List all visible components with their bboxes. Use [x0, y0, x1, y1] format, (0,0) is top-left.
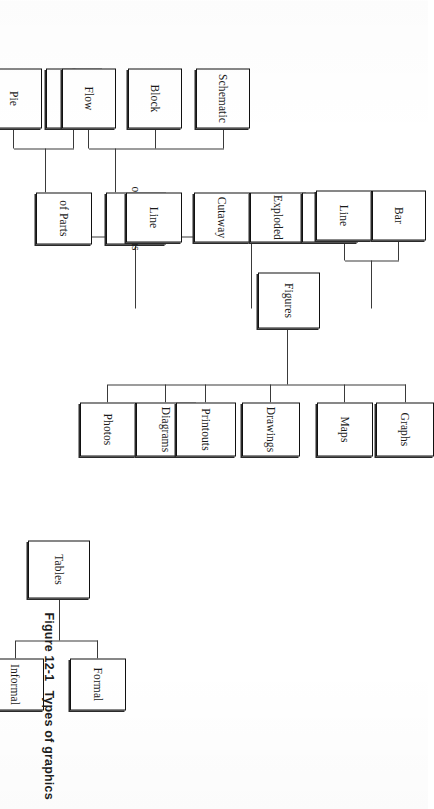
node-block[interactable]: Block — [128, 68, 182, 128]
edge-figures-spine — [166, 384, 406, 385]
edge-to-maps — [344, 384, 345, 402]
edge-ofparts-spine — [14, 148, 74, 149]
node-label: Line — [338, 204, 350, 225]
edge-figures-stem — [287, 328, 288, 384]
figure-caption: Figure 12-1Types of graphics — [42, 612, 56, 799]
node-label: Informal — [9, 663, 21, 704]
node-cutaway[interactable]: Cutaway — [194, 192, 250, 242]
node-pie[interactable]: Pie — [0, 68, 42, 128]
edge-to-graphs — [405, 384, 406, 402]
node-figures[interactable]: Figures — [258, 272, 320, 328]
edge-graphs-stem — [371, 260, 372, 308]
node-label: Tables — [53, 554, 65, 584]
edge-to-drawings — [270, 384, 271, 402]
node-drawings[interactable]: Drawings — [242, 402, 300, 456]
node-label: Printouts — [200, 408, 212, 450]
node-label: Photos — [102, 413, 114, 445]
node-formal[interactable]: Formal — [70, 658, 126, 710]
edge-tables-spine — [16, 640, 98, 641]
node-maps[interactable]: Maps — [317, 402, 373, 456]
edge-ofparts-stem — [45, 148, 46, 192]
edge-to-bar — [398, 240, 399, 260]
edge-ofops-stem — [115, 148, 116, 192]
node-label: Pie — [8, 91, 20, 106]
edge-ofops-spine — [89, 148, 224, 149]
node-label: Maps — [339, 416, 351, 442]
node-graphs-line[interactable]: Line — [316, 190, 372, 240]
node-tables[interactable]: Tables — [28, 540, 90, 598]
node-printouts[interactable]: Printouts — [176, 402, 236, 456]
node-label: Block — [149, 84, 161, 112]
node-exploded[interactable]: Exploded — [250, 192, 306, 242]
figure-caption-number: Figure 12-1 — [42, 612, 56, 681]
node-label: Cutaway — [216, 196, 228, 238]
node-label: Bar — [393, 207, 405, 224]
node-label: Flow — [83, 86, 95, 110]
edge-to-block — [155, 128, 156, 148]
node-bar[interactable]: Bar — [372, 190, 426, 240]
node-label: Schematic — [217, 74, 229, 123]
node-graphs[interactable]: Graphs — [376, 402, 434, 456]
node-label: Line — [148, 206, 160, 227]
edge-to-informal — [15, 640, 16, 658]
edge-to-organization — [73, 128, 74, 148]
node-label: Formal — [92, 667, 104, 701]
node-schematic[interactable]: Schematic — [196, 68, 250, 128]
node-label: Figures — [283, 282, 295, 317]
node-label: Drawings — [265, 406, 277, 452]
node-flow[interactable]: Flow — [62, 68, 116, 128]
node-label: Diagrams — [160, 406, 172, 452]
edge-figures-spine-lower — [108, 384, 166, 385]
node-label: Graphs — [399, 412, 411, 446]
edge-to-pie — [13, 128, 14, 148]
node-label: of Parts — [58, 200, 70, 236]
edge-to-flow — [88, 128, 89, 148]
edge-to-formal — [97, 640, 98, 658]
edge-tables-stem — [59, 598, 60, 640]
node-photos[interactable]: Photos — [80, 402, 136, 456]
edge-to-photos — [107, 384, 108, 402]
node-label: Exploded — [272, 195, 284, 240]
node-informal[interactable]: Informal — [0, 658, 44, 710]
node-of-parts[interactable]: of Parts — [36, 192, 92, 244]
edge-to-schematic — [223, 128, 224, 148]
edge-to-printouts — [205, 384, 206, 402]
edge-to-diagrams — [165, 384, 166, 402]
figure-caption-title: Types of graphics — [42, 690, 56, 799]
edge-drawings-stem — [251, 236, 252, 308]
node-drawings-line[interactable]: Line — [126, 192, 182, 242]
edge-to-gr-line — [344, 240, 345, 260]
edge-graphs-spine — [345, 260, 399, 261]
